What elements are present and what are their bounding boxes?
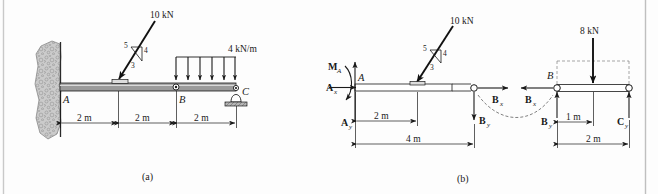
dimension-chain-a: 2 m 2 m 2 m <box>62 113 235 123</box>
rocker-ground-c <box>225 102 247 106</box>
slope-hyp-label-a: 5 <box>124 41 128 50</box>
pin-circle-b-left <box>471 85 478 92</box>
dim-label-a-2: 2 m <box>135 113 150 123</box>
resultant-label-8kn: 8 kN <box>580 26 599 36</box>
joint-label-b-a: B <box>179 94 186 105</box>
reaction-label-By-right: B <box>541 116 548 127</box>
reaction-sub-By-left: y <box>486 121 491 129</box>
load-arrow-10kn-a <box>119 21 155 79</box>
pin-dot-b-a <box>175 86 177 88</box>
joint-label-a-b: A <box>357 72 365 83</box>
dim-label-a-1: 2 m <box>77 113 92 123</box>
reaction-moment-MA: M A <box>328 61 352 100</box>
reaction-sub-Cy: y <box>624 122 629 130</box>
reaction-sub-By-right: y <box>548 122 553 130</box>
panel-caption-a: (a) <box>142 171 153 183</box>
moment-arc-MA <box>345 66 352 100</box>
pin-circle-b-right <box>554 85 561 92</box>
reaction-label-Bx-right: B <box>525 94 532 105</box>
slope-vert-label-b: 4 <box>443 49 447 58</box>
dim-label-b-2m-right: 2 m <box>586 134 601 144</box>
beam-segment-bc <box>557 85 629 92</box>
reaction-sub-MA: A <box>336 67 342 75</box>
reaction-sub-Ax: x <box>333 88 338 96</box>
udl-label-4knm-a: 4 kN/m <box>228 44 257 54</box>
slope-horiz-label-b: 3 <box>430 63 434 72</box>
rocker-body-c <box>231 95 241 103</box>
joint-label-c-a: C <box>242 86 250 97</box>
joint-label-a-A: A <box>62 94 70 105</box>
panel-caption-b: (b) <box>457 173 469 185</box>
dim-label-b-2m: 2 m <box>374 111 389 121</box>
reaction-label-Ax: A <box>326 82 334 93</box>
slope-vert-label-a: 4 <box>144 46 148 55</box>
figure-root: A 10 kN 5 4 3 4 kN/m B <box>0 0 658 194</box>
dim-label-b-4m: 4 m <box>406 134 421 144</box>
panel-b-left-segment: A A y A x M A 10 kN 5 4 3 B <box>326 16 508 148</box>
slope-hyp-label-b: 5 <box>423 44 427 53</box>
reaction-sub-Bx-left: x <box>499 100 504 108</box>
rocker-dot-c <box>235 87 237 89</box>
beam-segment-ab <box>355 84 452 91</box>
reaction-label-Ay: A <box>341 117 349 128</box>
slope-horiz-label-a: 3 <box>131 61 135 70</box>
fixed-wall-support-a <box>35 41 61 139</box>
load-arrow-10kn-b <box>417 26 453 82</box>
segment-link-arc <box>478 95 553 118</box>
reaction-label-Bx-left: B <box>492 94 499 105</box>
distributed-load-4knm-a: 4 kN/m <box>176 44 257 80</box>
pin-circle-c-right <box>626 85 633 92</box>
load-label-10kn-a: 10 kN <box>150 10 174 20</box>
dim-label-b-1m: 1 m <box>566 112 581 122</box>
beam-ac <box>60 83 236 91</box>
statics-figure-svg: A 10 kN 5 4 3 4 kN/m B <box>0 0 658 194</box>
dim-label-a-3: 2 m <box>194 113 209 123</box>
panel-b-right-segment: B x B 8 kN B y C y 1 m <box>478 26 632 148</box>
reaction-sub-Bx-right: x <box>532 100 537 108</box>
point-load-10kn-a: 10 kN 5 4 3 <box>112 10 174 84</box>
reaction-label-Cy: C <box>617 116 624 127</box>
point-load-10kn-b: 10 kN 5 4 3 <box>410 16 474 85</box>
reaction-label-By-left: B <box>479 115 486 126</box>
joint-label-b-right: B <box>547 70 554 81</box>
load-pad-a <box>112 80 128 84</box>
load-pad-b <box>410 82 425 86</box>
panel-a: A 10 kN 5 4 3 4 kN/m B <box>35 10 257 183</box>
reaction-sub-Ay: y <box>348 123 353 131</box>
wall-hatch-region <box>35 41 61 139</box>
load-label-10kn-b: 10 kN <box>450 16 474 26</box>
